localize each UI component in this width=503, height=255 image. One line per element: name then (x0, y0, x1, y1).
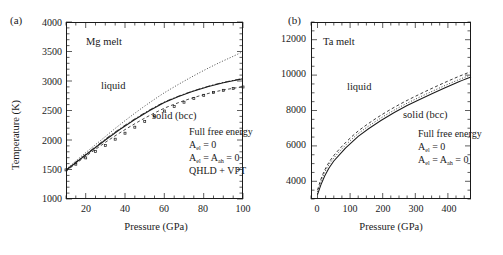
panel-b-tag: (b) (288, 14, 301, 26)
panel-a-ytick-2500: 2500 (24, 105, 62, 116)
panel-a-xtick-40: 40 (112, 203, 138, 214)
panel-b-ytick-10000: 10000 (261, 68, 306, 79)
panel-b-ytick-6000: 6000 (261, 139, 306, 150)
panel-b-tickmarks (311, 22, 471, 199)
panel-a: (a) Temperature (K) 4000 3500 3000 2500 … (0, 0, 251, 255)
panel-b-legend-label-2: Ael = Aah = 0 (418, 154, 469, 166)
panel-a-x-axis-title: Pressure (GPa) (96, 221, 216, 232)
panel-b-xtick-400: 400 (435, 203, 463, 214)
panel-a-xtick-60: 60 (151, 203, 177, 214)
panel-a-legend-label-3: QHLD + VPT (189, 165, 246, 176)
panel-a-ytick-3500: 3500 (24, 46, 62, 57)
panel-b-x-axis-title: Pressure (GPa) (331, 221, 451, 232)
panel-a-ytick-3000: 3000 (24, 76, 62, 87)
panel-a-legend-label-1: Ael = 0 (189, 139, 216, 151)
panel-a-y-axis-title: Temperature (K) (10, 100, 21, 170)
panel-a-legend-label-2: Ael = Aah = 0 (189, 152, 240, 164)
panel-b-xtick-200: 200 (369, 203, 397, 214)
panel-a-xtick-80: 80 (190, 203, 216, 214)
panel-a-ytick-1500: 1500 (24, 164, 62, 175)
panel-b-ytick-12000: 12000 (261, 33, 306, 44)
panel-a-ytick-4000: 4000 (24, 17, 62, 28)
panel-b-legend-label-0: Full free energy (418, 128, 482, 139)
panel-b-ytick-4000: 4000 (261, 175, 306, 186)
panel-b-legend-label-1: Ael = 0 (418, 141, 445, 153)
panel-b-xtick-0: 0 (306, 203, 328, 214)
panel-a-xtick-20: 20 (73, 203, 99, 214)
panel-a-tag: (a) (10, 14, 22, 26)
panel-a-ytick-1000: 1000 (24, 193, 62, 204)
panel-b-ytick-8000: 8000 (261, 104, 306, 115)
figure-container: (a) Temperature (K) 4000 3500 3000 2500 … (0, 0, 503, 255)
panel-a-ytick-2000: 2000 (24, 135, 62, 146)
panel-b-xtick-100: 100 (336, 203, 364, 214)
panel-b-xtick-300: 300 (402, 203, 430, 214)
panel-b: (b) 12000 10000 8000 6000 4000 0 100 200… (251, 0, 502, 255)
panel-b-curves (311, 22, 471, 199)
panel-a-legend-label-0: Full free energy (189, 126, 253, 137)
